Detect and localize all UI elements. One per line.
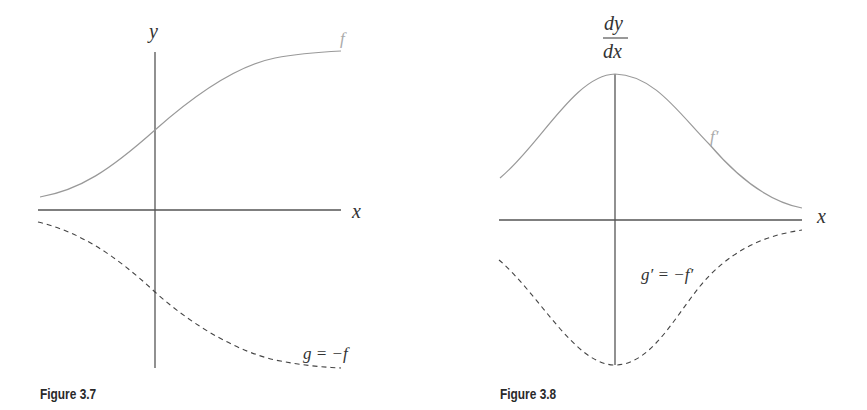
figure-3-8: dy dx f′ x g′ = −f′ bbox=[499, 12, 826, 365]
curve-g-dashed bbox=[38, 222, 341, 368]
dy-label: dy bbox=[604, 12, 623, 35]
curve-f bbox=[40, 51, 341, 197]
curve-f-prime bbox=[500, 74, 802, 208]
curve-g-prime-dashed bbox=[499, 230, 802, 365]
dx-label: dx bbox=[603, 40, 622, 62]
g-label: g = −f bbox=[303, 344, 350, 363]
f-prime-label: f′ bbox=[710, 127, 719, 146]
figure-3-7-caption: Figure 3.7 bbox=[40, 386, 96, 402]
y-axis-label: y bbox=[147, 20, 158, 43]
figure-3-8-caption: Figure 3.8 bbox=[500, 386, 556, 402]
figures-canvas: y f x g = −f dy dx f′ x g′ = −f′ bbox=[0, 0, 867, 410]
g-prime-label: g′ = −f′ bbox=[641, 265, 693, 284]
figure-3-7: y f x g = −f bbox=[38, 20, 361, 368]
x-axis-label: x bbox=[816, 205, 826, 227]
x-axis-label: x bbox=[351, 200, 361, 222]
f-label: f bbox=[340, 29, 347, 48]
